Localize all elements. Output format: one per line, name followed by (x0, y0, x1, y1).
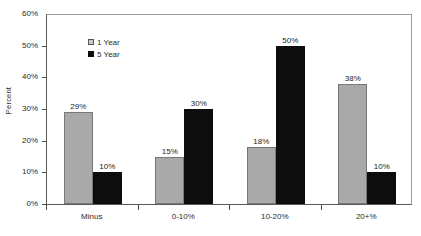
y-tick-label: 0% (12, 200, 38, 208)
legend-item-5-year: 5 Year (88, 48, 120, 60)
bar-value-label: 29% (70, 102, 86, 111)
y-tick-label: 60% (12, 10, 38, 18)
y-tick-label: 20% (12, 137, 38, 145)
bar-chart: Percent 0%10%20%30%40%50%60% 29%10%15%30… (0, 0, 421, 236)
y-tick-label: 50% (12, 42, 38, 50)
bar: 30% (184, 109, 213, 204)
bar-value-label: 15% (162, 147, 178, 156)
legend-label: 1 Year (97, 38, 120, 47)
x-category-label: 0-10% (172, 212, 195, 221)
bar-value-label: 10% (99, 162, 115, 171)
bar: 29% (64, 112, 93, 204)
legend-label: 5 Year (97, 50, 120, 59)
bar: 38% (338, 84, 367, 204)
bar: 50% (276, 46, 305, 204)
legend-item-1-year: 1 Year (88, 36, 120, 48)
bar-value-label: 38% (345, 74, 361, 83)
x-tick-mark (46, 205, 47, 210)
bar: 15% (155, 157, 184, 205)
bar: 10% (93, 172, 122, 204)
y-tick-mark (42, 46, 47, 47)
bar-value-label: 30% (191, 99, 207, 108)
x-category-label: 20+% (356, 212, 377, 221)
y-axis-ticks: 0%10%20%30%40%50%60% (12, 0, 38, 236)
y-tick-label: 10% (12, 168, 38, 176)
x-category-label: 10-20% (261, 212, 289, 221)
bar-value-label: 18% (253, 137, 269, 146)
legend-swatch-black-icon (88, 51, 94, 57)
bar: 10% (367, 172, 396, 204)
y-tick-label: 30% (12, 105, 38, 113)
y-tick-mark (42, 141, 47, 142)
bar: 18% (247, 147, 276, 204)
legend-swatch-gray-icon (88, 39, 94, 45)
bar-value-label: 10% (374, 162, 390, 171)
x-tick-mark (321, 205, 322, 210)
x-tick-mark (138, 205, 139, 210)
y-tick-mark (42, 77, 47, 78)
x-category-label: Minus (81, 212, 102, 221)
y-tick-mark (42, 109, 47, 110)
x-tick-mark (229, 205, 230, 210)
bar-value-label: 50% (282, 36, 298, 45)
y-tick-label: 40% (12, 73, 38, 81)
y-tick-mark (42, 172, 47, 173)
chart-legend: 1 Year 5 Year (88, 36, 120, 60)
